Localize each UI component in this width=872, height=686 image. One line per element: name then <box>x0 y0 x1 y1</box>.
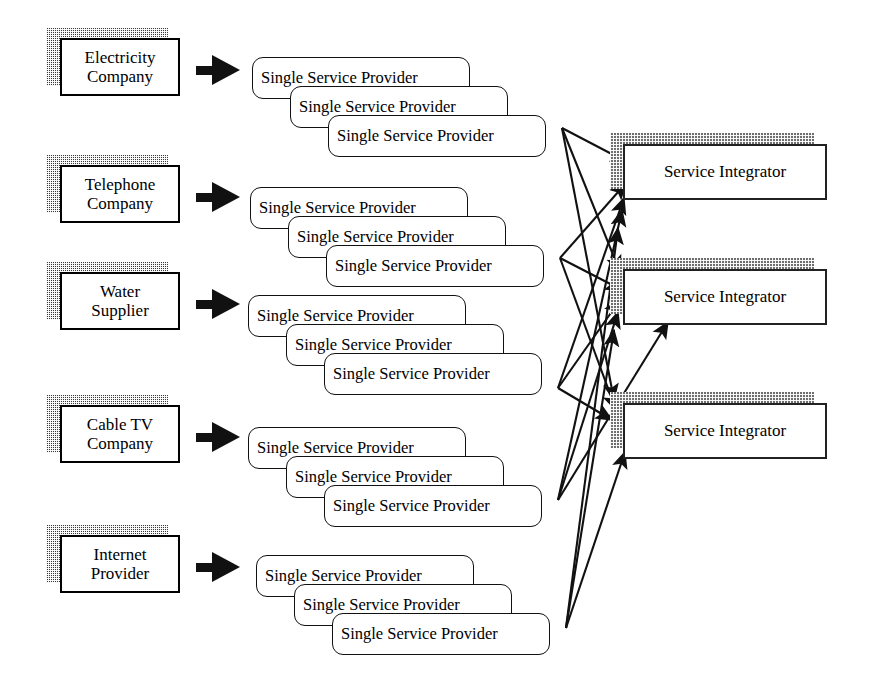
arrow-head <box>212 289 240 319</box>
right-block-arrow-icon <box>196 55 240 85</box>
source-label-line1: Water <box>100 282 140 301</box>
source-box[interactable]: Electricity Company <box>60 38 180 96</box>
provider-label: Single Service Provider <box>335 256 492 276</box>
arrow-head <box>212 422 240 452</box>
arrow-head <box>212 182 240 212</box>
source-label-line2: Company <box>87 434 153 453</box>
provider-label: Single Service Provider <box>265 566 422 586</box>
wire-s4-i2 <box>558 312 618 500</box>
integrator-box[interactable]: Service Integrator <box>623 403 827 459</box>
wire-s5-i3 <box>566 452 625 628</box>
source-box[interactable]: Cable TV Company <box>60 405 180 463</box>
source-label-line1: Cable TV <box>87 415 153 434</box>
source-label-line1: Telephone <box>85 175 156 194</box>
wire-s5-i2 <box>566 330 614 628</box>
source-label-line2: Company <box>87 194 153 213</box>
provider-box[interactable]: Single Service Provider <box>324 485 542 527</box>
provider-label: Single Service Provider <box>295 335 452 355</box>
provider-box[interactable]: Single Service Provider <box>332 613 550 655</box>
arrow-head <box>212 552 240 582</box>
provider-label: Single Service Provider <box>333 496 490 516</box>
arrow-head <box>212 55 240 85</box>
provider-label: Single Service Provider <box>257 306 414 326</box>
right-block-arrow-icon <box>196 182 240 212</box>
wire-s3-i3 <box>558 388 612 420</box>
integrator-label: Service Integrator <box>664 287 786 307</box>
provider-label: Single Service Provider <box>297 227 454 247</box>
provider-box[interactable]: Single Service Provider <box>326 245 544 287</box>
source-box[interactable]: Telephone Company <box>60 165 180 223</box>
wire-s2-i3 <box>560 258 616 410</box>
provider-label: Single Service Provider <box>333 364 490 384</box>
right-block-arrow-icon <box>196 289 240 319</box>
source-label-line2: Company <box>87 67 153 86</box>
provider-box[interactable]: Single Service Provider <box>324 353 542 395</box>
provider-label: Single Service Provider <box>303 595 460 615</box>
provider-label: Single Service Provider <box>257 438 414 458</box>
provider-label: Single Service Provider <box>341 624 498 644</box>
wire-s1-i3 <box>562 128 614 400</box>
source-label-line2: Provider <box>91 564 150 583</box>
source-label-line2: Supplier <box>91 301 149 320</box>
wire-s4-i1 <box>558 210 622 500</box>
provider-label: Single Service Provider <box>299 97 456 117</box>
integrator-label: Service Integrator <box>664 162 786 182</box>
integrator-box[interactable]: Service Integrator <box>623 144 827 200</box>
integrator-label: Service Integrator <box>664 421 786 441</box>
source-box[interactable]: Water Supplier <box>60 272 180 330</box>
source-label-line1: Internet <box>94 545 147 564</box>
right-block-arrow-icon <box>196 422 240 452</box>
integrator-box[interactable]: Service Integrator <box>623 269 827 325</box>
source-box[interactable]: Internet Provider <box>60 535 180 593</box>
provider-box[interactable]: Single Service Provider <box>328 115 546 157</box>
provider-label: Single Service Provider <box>259 198 416 218</box>
provider-label: Single Service Provider <box>295 467 452 487</box>
provider-label: Single Service Provider <box>261 68 418 88</box>
provider-label: Single Service Provider <box>337 126 494 146</box>
diagram-canvas: Electricity Company Telephone Company Wa… <box>0 0 872 686</box>
right-block-arrow-icon <box>196 552 240 582</box>
source-label-line1: Electricity <box>85 48 156 67</box>
wire-s2-i1 <box>560 183 626 258</box>
